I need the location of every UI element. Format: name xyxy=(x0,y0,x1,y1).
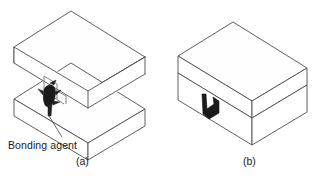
panel-b-joined-block xyxy=(178,22,307,145)
bonding-agent-drip xyxy=(48,104,52,116)
bonding-diagram-svg xyxy=(0,0,316,177)
figure-container: Bonding agent (a) (b) xyxy=(0,0,316,177)
